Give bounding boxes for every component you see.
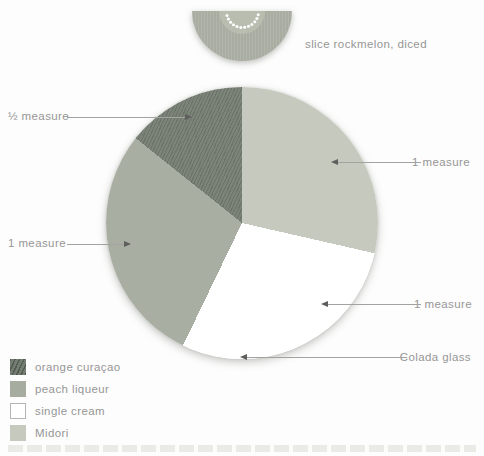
leader-line-curacao [67,117,186,118]
legend: orange curaçao peach liqueur single crea… [10,359,121,447]
garnish-label: slice rockmelon, diced [305,38,427,50]
leader-line-glass [246,357,407,358]
dashed-divider-strip [8,445,476,452]
legend-label: Midori [35,427,69,439]
legend-label: single cream [35,405,105,417]
legend-item-peach-liqueur: peach liqueur [10,381,121,397]
legend-swatch-single-cream [10,403,26,419]
legend-label: orange curaçao [35,361,121,373]
leader-line-midori [337,162,421,163]
legend-swatch-orange-curacao [10,359,26,375]
arrowhead-right [124,241,131,247]
legend-item-midori: Midori [10,425,121,441]
arrowhead-right [185,114,192,120]
leader-line-cream [327,304,421,305]
legend-swatch-peach-liqueur [10,381,26,397]
arrowhead-left [331,159,338,165]
melon-seeds-dots [241,11,244,13]
pie-chart [106,87,378,359]
legend-item-single-cream: single cream [10,403,121,419]
callout-cream-measure: 1 measure [414,298,472,310]
melon-seed-cavity [219,11,265,34]
legend-swatch-midori [10,425,26,441]
callout-curacao-measure: ½ measure [8,110,69,122]
leader-line-peach [67,244,125,245]
arrowhead-left [240,354,247,360]
legend-item-orange-curacao: orange curaçao [10,359,121,375]
callout-peach-measure: 1 measure [8,237,66,249]
recipe-infographic: slice rockmelon, diced ½ measure 1 measu… [0,0,484,456]
legend-label: peach liqueur [35,383,109,395]
arrowhead-left [321,301,328,307]
callout-glass: Colada glass [400,351,471,363]
pie-wedge-orange-curacao-hatch [106,87,378,359]
melon-slice-illustration [192,11,292,61]
